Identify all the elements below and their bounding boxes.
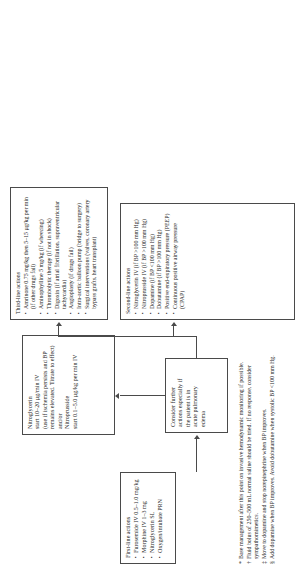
footnote-marker: *	[238, 561, 245, 564]
list-item: Intra-aortic balloon pump (bridge to sur…	[76, 193, 83, 314]
list-item: Furosemide IV 0.5–1.0 mg/kg	[133, 478, 140, 558]
consider-line: actions especially if	[177, 364, 184, 427]
connector-to-consider	[196, 439, 197, 454]
list-item: Dobutamine (if BP >100 mm Hg)	[156, 209, 163, 314]
node-consider-further-actions[interactable]: Consider further actions especially if t…	[165, 358, 228, 433]
footnote: ‡ Move to dopamine and stop norepinephri…	[261, 332, 268, 564]
first-line-heading: First-line actions	[125, 478, 132, 558]
list-item: Nitroglycerin IV (if BP >100 mm Hg)	[133, 209, 140, 314]
consider-line: edema	[200, 364, 207, 427]
connector-to-second-line	[173, 326, 174, 337]
second-line-heading: Second-line actions	[125, 209, 132, 314]
nitro-line: and/or	[57, 341, 64, 429]
nitro-line: remains elevated. Titrate to effect)	[49, 341, 56, 429]
list-item: Surgical interventions (valves, coronary…	[84, 193, 98, 314]
first-line-list: Furosemide IV 0.5–1.0 mg/kg Morphine IV …	[133, 478, 164, 558]
diagram-rotation-wrapper: First-line actions Furosemide IV 0.5–1.0…	[0, 0, 299, 570]
third-line-list: Amrinone 0.75 mg/kg then 5–15 µg/kg per …	[23, 193, 98, 314]
list-item: Amrinone 0.75 mg/kg then 5–15 µg/kg per …	[23, 193, 37, 314]
connector-first-line-out	[196, 453, 197, 472]
nitro-line: start 0.1–5.0 µg/kg per min IV	[72, 341, 79, 429]
arrowhead-to-third-line	[56, 322, 62, 326]
second-line-list: Nitroglycerin IV (if BP >100 mm Hg) Nitr…	[133, 209, 186, 314]
footnote: † Fluid bolus of 250–500 mL normal salin…	[246, 332, 261, 564]
node-second-line-actions[interactable]: Second-line actions Nitroglycerin IV (if…	[120, 203, 295, 320]
footnote-marker: §	[269, 561, 276, 564]
footnote-text: Add dopamine when BP improves. Avoid dob…	[269, 355, 275, 559]
consider-line: the patient is in	[185, 364, 192, 427]
footnote-marker: †	[246, 561, 253, 564]
nitro-line: (use if ischemia persists and BP	[42, 341, 49, 429]
node-first-line-actions[interactable]: First-line actions Furosemide IV 0.5–1.0…	[120, 472, 176, 564]
list-item: Aminophylline 5 mg/kg (if wheezing)	[38, 193, 45, 314]
consider-line: acute pulmonary	[192, 364, 199, 427]
footnote-marker: ‡	[261, 561, 268, 564]
nitro-line: Nitroglycerin	[27, 341, 34, 429]
nitro-line: Nitroprusside	[64, 341, 71, 429]
list-item: Nitroglycerin SL	[149, 478, 156, 558]
footnote: * Base management after this point on in…	[238, 332, 245, 564]
connector-to-third-line	[58, 326, 59, 337]
arrowhead-to-nitro	[115, 393, 119, 399]
nitro-line: start 10–20 µg/min IV	[34, 341, 41, 429]
list-item: Thrombolytic therapy (if not in shock)	[46, 193, 53, 314]
footnote-text: Move to dopamine and stop norepinephrine…	[261, 409, 267, 559]
flowchart-canvas: First-line actions Furosemide IV 0.5–1.0…	[0, 0, 299, 570]
list-item: Angioplasty (if drugs fail)	[68, 193, 75, 314]
arrowhead-to-consider	[194, 435, 200, 439]
node-third-line-actions[interactable]: Third-line actions Amrinone 0.75 mg/kg t…	[10, 187, 108, 320]
connector-consider-to-nitro	[120, 395, 165, 396]
list-item: Dopamine (if BP <100 mm Hg)	[149, 209, 156, 314]
list-item: Digoxin (if atrial fibrillation, suprave…	[54, 193, 68, 314]
consider-line: Consider further	[170, 364, 177, 427]
footnote: § Add dopamine when BP improves. Avoid d…	[269, 332, 276, 564]
list-item: Positive end-expiratory pressure (PEEP)	[164, 209, 171, 314]
list-item: Nitroprusside IV (if BP >100 mm Hg)	[141, 209, 148, 314]
list-item: Oxygen/intubate PRN	[157, 478, 164, 558]
arrowhead-to-second-line	[171, 322, 177, 326]
footnotes-block: * Base management after this point on in…	[238, 332, 277, 564]
list-item: Morphine IV 1–3 mg	[141, 478, 148, 558]
footnote-text: Base management after this point on inva…	[238, 362, 244, 559]
connector-trunk	[58, 336, 197, 337]
footnote-text: Fluid bolus of 250–500 mL normal saline …	[246, 365, 259, 559]
node-nitroglycerin-nitroprusside[interactable]: Nitroglycerin start 10–20 µg/min IV (use…	[22, 335, 115, 435]
connector-consider-out	[196, 336, 197, 358]
third-line-heading: Third-line actions	[15, 193, 22, 314]
list-item: Continuous positive airway pressure (CPA…	[172, 209, 186, 314]
